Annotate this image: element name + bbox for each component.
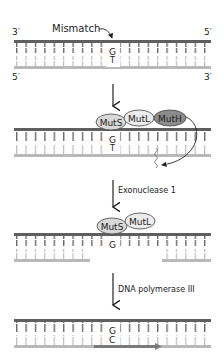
mismatch-pointer-icon xyxy=(99,29,112,38)
daughter-strand-right xyxy=(162,259,211,262)
svg-text:MutS: MutS xyxy=(100,118,123,128)
mismatch-repair-diagram: 3′ 5′ Mismatch G T 5′ 3′ G T MutS MutL xyxy=(0,0,224,361)
daughter-strand xyxy=(14,154,211,157)
base-c-corrected: C xyxy=(109,335,115,345)
panel-mut-complex-binding: G T MutS MutL MutH xyxy=(14,110,211,168)
mutl-protein: MutL xyxy=(124,110,154,126)
end-label-top-left: 3′ xyxy=(12,27,20,37)
svg-text:MutH: MutH xyxy=(158,114,182,124)
base-t-mismatch: T xyxy=(109,144,115,153)
mutl-protein: MutL xyxy=(125,213,155,229)
panel-resynthesis: G C xyxy=(14,319,211,350)
svg-text:MutL: MutL xyxy=(129,217,151,227)
panel-initial-mismatch: 3′ 5′ Mismatch G T 5′ 3′ xyxy=(12,23,212,82)
mismatch-label: Mismatch xyxy=(52,23,100,34)
end-label-bottom-right: 3′ xyxy=(204,72,212,82)
muts-protein: MutS xyxy=(96,114,126,130)
end-label-top-right: 5′ xyxy=(204,27,212,37)
base-g: G xyxy=(109,240,116,250)
svg-text:MutS: MutS xyxy=(101,222,124,232)
template-strand xyxy=(14,319,211,322)
muts-protein: MutS xyxy=(97,218,127,234)
exonuclease-label: Exonuclease 1 xyxy=(118,186,176,195)
base-t-mismatch: T xyxy=(109,56,115,65)
muth-protein: MutH xyxy=(154,110,186,126)
dna-polymerase-label: DNA polymerase III xyxy=(118,285,195,294)
end-label-bottom-left: 5′ xyxy=(12,72,20,82)
panel-excision: G MutS MutL xyxy=(14,213,211,262)
svg-text:MutL: MutL xyxy=(128,114,150,124)
template-strand xyxy=(14,40,211,43)
daughter-strand-left xyxy=(14,259,90,262)
